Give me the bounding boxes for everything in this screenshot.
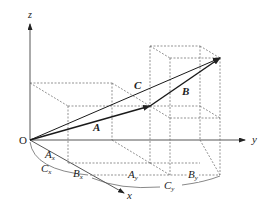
cx-label: Cx bbox=[41, 163, 51, 176]
cy-label: Cy bbox=[163, 180, 175, 193]
ax-label: Ax bbox=[45, 149, 55, 162]
vector-c-label: C bbox=[134, 80, 141, 91]
bx-label: Bx bbox=[73, 168, 83, 181]
x-axis-label: x bbox=[127, 190, 132, 201]
box-b bbox=[90, 46, 220, 175]
vector-b bbox=[150, 58, 220, 106]
by-label: By bbox=[187, 169, 199, 182]
ay-label: Ay bbox=[127, 169, 139, 182]
vectors bbox=[30, 58, 220, 140]
origin-label: O bbox=[19, 135, 27, 146]
vector-c bbox=[30, 58, 220, 140]
y-axis-label: y bbox=[252, 134, 257, 145]
z-axis-label: z bbox=[28, 10, 32, 20]
vector-a-label: A bbox=[93, 122, 100, 133]
axes bbox=[30, 24, 245, 193]
vector-a bbox=[30, 106, 150, 140]
vector-b-label: B bbox=[182, 86, 189, 97]
